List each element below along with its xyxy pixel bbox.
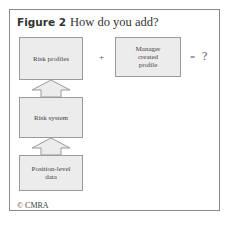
risk-system-box: Risk system (19, 97, 83, 138)
manager-profile-box: Manager created profile (115, 37, 181, 77)
manager-profile-line-2: created (138, 53, 158, 61)
figure-label: Figure 2 (17, 16, 66, 28)
up-arrow-icon (19, 137, 83, 156)
up-arrow-icon (19, 79, 83, 98)
position-data-line-1: Position-level (32, 165, 71, 173)
result-question-mark: ? (202, 49, 207, 64)
figure-subtitle: How do you add? (70, 15, 159, 29)
copyright-credit: © CMRA (17, 201, 49, 210)
manager-profile-line-3: profile (139, 61, 158, 69)
risk-profiles-box: Risk profiles (19, 37, 83, 80)
plus-operator: + (99, 52, 104, 62)
risk-profiles-label: Risk profiles (33, 55, 69, 63)
risk-system-label: Risk system (34, 114, 68, 122)
position-data-line-2: data (45, 173, 57, 181)
figure-title: Figure 2How do you add? (17, 15, 159, 30)
manager-profile-line-1: Manager (136, 45, 161, 53)
position-data-box: Position-level data (19, 155, 83, 191)
equals-operator: = (190, 52, 195, 62)
